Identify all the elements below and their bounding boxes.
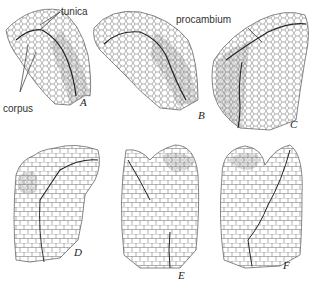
panel-f-drawing <box>220 145 302 268</box>
panel-a-drawing <box>6 9 91 105</box>
tunica-label: tunica <box>61 7 88 17</box>
panel-letter-d: D <box>74 247 82 258</box>
corpus-label: corpus <box>3 104 33 114</box>
panel-d-drawing <box>14 145 99 262</box>
panel-letter-a: A <box>80 97 87 108</box>
shoot-apex-figure <box>0 0 313 288</box>
panel-e-drawing <box>121 145 198 268</box>
panel-letter-b: B <box>198 110 205 121</box>
procambium-label: procambium <box>176 15 231 25</box>
panel-c-drawing <box>212 12 309 130</box>
panel-letter-e: E <box>178 270 185 281</box>
panel-letter-f: F <box>283 260 290 271</box>
panel-letter-c: C <box>290 119 297 130</box>
panel-b-drawing <box>94 11 198 110</box>
